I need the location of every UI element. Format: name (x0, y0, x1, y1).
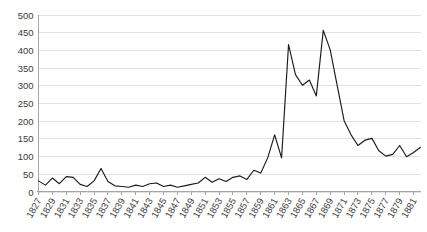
y-axis-tick-label: 400 (18, 45, 34, 56)
x-axis-tick-labels: 1827182918311833183518371839184118431845… (24, 196, 419, 220)
y-axis-tick-label: 450 (18, 27, 34, 38)
series-line-series-1 (39, 30, 421, 187)
y-axis-tick-label: 0 (28, 187, 33, 198)
data-series (39, 30, 421, 187)
line-chart: 050100150200250300350400450500 182718291… (0, 0, 427, 232)
y-axis-tick-label: 50 (23, 169, 34, 180)
axis-lines (37, 15, 421, 195)
chart-plot-area: 050100150200250300350400450500 182718291… (0, 0, 427, 232)
y-axis-tick-label: 350 (18, 63, 34, 74)
y-axis-tick-label: 500 (18, 10, 34, 21)
y-axis-tick-label: 250 (18, 98, 34, 109)
y-axis-tick-label: 150 (18, 133, 34, 144)
y-axis-tick-label: 300 (18, 80, 34, 91)
y-axis-tick-label: 200 (18, 116, 34, 127)
gridlines (39, 16, 421, 193)
x-axis-tick-label: 1881 (399, 196, 419, 220)
y-axis-tick-label: 100 (18, 151, 34, 162)
y-axis-tick-labels: 050100150200250300350400450500 (18, 10, 34, 198)
